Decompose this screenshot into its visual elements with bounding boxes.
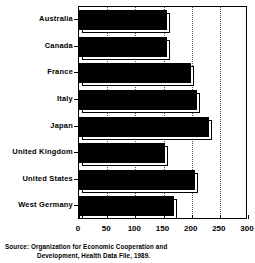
bar-japan <box>79 117 209 137</box>
bar-row <box>79 114 246 141</box>
category-label-united-states: United States <box>0 174 73 183</box>
bar-fill <box>79 143 165 163</box>
source-label: Source: <box>5 243 29 250</box>
bar-row <box>79 87 246 114</box>
bar-united-states <box>79 170 195 190</box>
bar-australia <box>79 10 167 30</box>
bar-fill <box>79 117 209 137</box>
bar-row <box>79 140 246 167</box>
bar-fill <box>79 196 174 216</box>
category-label-united-kingdom: United Kingdom <box>0 147 73 156</box>
x-tick-label-50: 50 <box>102 224 111 233</box>
tick-mark-150 <box>164 215 165 219</box>
category-label-japan: Japan <box>0 121 73 130</box>
bar-united-kingdom <box>79 143 165 163</box>
bar-fill <box>79 63 191 83</box>
tick-mark-100 <box>135 215 136 219</box>
x-tick-label-100: 100 <box>128 224 141 233</box>
category-label-australia: Australia <box>0 14 73 23</box>
source-line-2: Development, Health Data File, 1989. <box>37 252 253 261</box>
x-axis-tick-labels: 050100150200250300 <box>0 224 255 236</box>
x-tick-label-150: 150 <box>156 224 169 233</box>
category-label-west-germany: West Germany <box>0 200 73 209</box>
x-tick-label-200: 200 <box>184 224 197 233</box>
category-label-canada: Canada <box>0 41 73 50</box>
bar-fill <box>79 37 167 57</box>
tick-mark-200 <box>192 215 193 219</box>
tick-mark-250 <box>220 215 221 219</box>
category-label-italy: Italy <box>0 94 73 103</box>
x-tick-label-250: 250 <box>212 224 225 233</box>
bar-row <box>79 7 246 34</box>
bar-chart-figure: AustraliaCanadaFranceItalyJapanUnited Ki… <box>0 0 255 263</box>
bar-france <box>79 63 191 83</box>
x-tick-label-300: 300 <box>240 224 253 233</box>
category-label-france: France <box>0 67 73 76</box>
bar-fill <box>79 10 167 30</box>
bar-row <box>79 60 246 87</box>
bar-fill <box>79 170 195 190</box>
bar-canada <box>79 37 167 57</box>
bar-row <box>79 167 246 194</box>
x-tick-label-0: 0 <box>76 224 80 233</box>
tick-mark-0 <box>79 215 80 219</box>
bar-row <box>79 193 246 220</box>
bar-italy <box>79 90 197 110</box>
tick-mark-50 <box>107 215 108 219</box>
source-note: Source: Organization for Economic Cooper… <box>5 243 253 260</box>
bar-fill <box>79 90 197 110</box>
bar-west-germany <box>79 196 174 216</box>
bar-row <box>79 34 246 61</box>
tick-mark-300 <box>248 215 249 219</box>
source-line-1: Organization for Economic Cooperation an… <box>31 243 167 250</box>
plot-area <box>78 6 247 219</box>
